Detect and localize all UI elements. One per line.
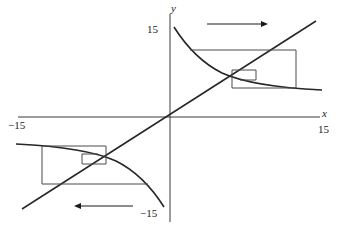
x-axis-max-tick-label: 15	[318, 124, 329, 135]
plot-canvas	[0, 0, 338, 239]
cobweb-path-lower	[42, 146, 148, 184]
y-axis-label: y	[171, 3, 176, 14]
axes-group	[18, 14, 320, 222]
x-axis-label: x	[322, 108, 327, 119]
map-curve-lower	[16, 144, 164, 207]
cobweb-path-upper	[190, 50, 296, 88]
y-axis-max-tick-label: 15	[147, 24, 158, 35]
arrow-right-head	[261, 21, 268, 27]
arrow-left-head	[74, 203, 81, 209]
x-axis-min-tick-label: −15	[8, 120, 25, 131]
arrow-left	[74, 203, 133, 209]
cobweb-diagram: y x 15 −15 15 −15	[0, 0, 338, 239]
arrow-right	[207, 21, 268, 27]
map-curve-upper	[174, 27, 322, 90]
identity-line	[22, 21, 316, 209]
y-axis-min-tick-label: −15	[140, 208, 157, 219]
